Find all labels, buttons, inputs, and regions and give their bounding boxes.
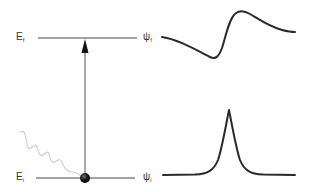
final-wavefunction-label: ψf — [143, 32, 152, 43]
final-energy-subscript: f — [23, 37, 25, 43]
final-energy-symbol: E — [16, 31, 23, 42]
initial-energy-subscript: i — [23, 177, 24, 183]
transition-arrowhead-icon — [82, 39, 89, 53]
final-energy-label: Ef — [16, 32, 24, 43]
energy-level-diagram — [0, 0, 313, 192]
initial-wavefunction-subscript: i — [150, 177, 151, 183]
initial-energy-label: Ei — [16, 172, 24, 183]
photon-wavy-line — [20, 131, 81, 176]
final-wavefunction-subscript: f — [150, 37, 152, 43]
initial-energy-symbol: E — [16, 171, 23, 182]
initial-wavefunction-label: ψi — [143, 172, 151, 183]
final-wavefunction-curve — [162, 11, 295, 58]
initial-wavefunction-curve — [163, 110, 295, 175]
particle-ball — [80, 173, 90, 183]
